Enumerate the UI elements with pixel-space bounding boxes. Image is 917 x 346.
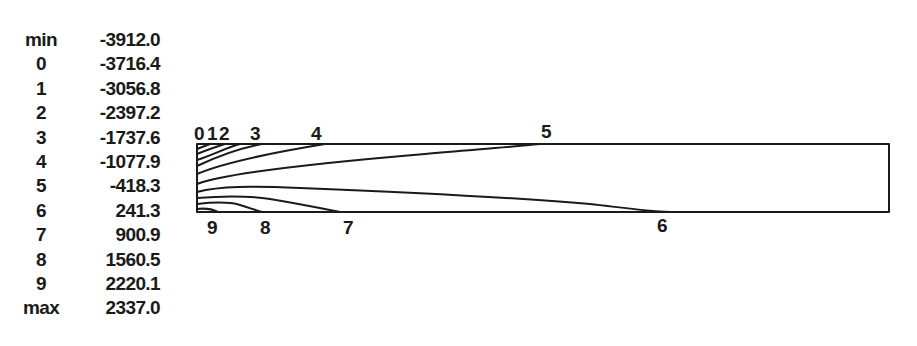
contour-line-1 (197, 144, 225, 154)
contour-label-3: 3 (250, 124, 260, 143)
contour-label-5: 5 (541, 122, 551, 141)
domain-boundary (197, 144, 889, 212)
contour-label-8: 8 (260, 218, 270, 237)
contour-label-4: 4 (311, 124, 321, 143)
contour-label-2: 2 (219, 124, 229, 143)
contour-line-8 (197, 203, 262, 212)
contour-label-7: 7 (343, 218, 353, 237)
contour-label-1: 1 (207, 124, 217, 143)
contour-label-0: 0 (194, 124, 204, 143)
contour-line-7 (197, 197, 340, 212)
contour-line-5 (197, 144, 540, 184)
contour-plot (0, 0, 917, 346)
contour-line-4 (197, 144, 325, 174)
contour-label-6: 6 (657, 216, 667, 235)
contour-label-9: 9 (207, 218, 217, 237)
